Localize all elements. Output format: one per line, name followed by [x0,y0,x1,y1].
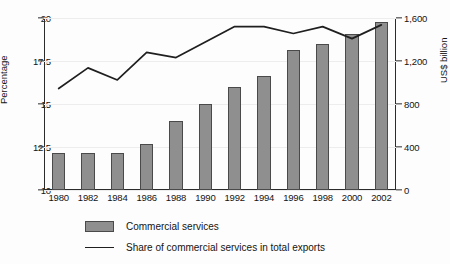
legend-label: Share of commercial services in total ex… [126,242,325,253]
legend-swatch-cell [0,247,126,248]
bar [228,87,241,190]
gridline [44,18,396,19]
y-axis-right-tick-label: 400 [404,142,444,153]
y-axis-right-tick-mark [396,103,402,104]
gridline [44,190,396,191]
x-axis-tick-label: 2002 [371,192,391,203]
bar [345,34,358,190]
x-axis-tick-label: 1986 [136,192,156,203]
x-axis-tick-label: 1990 [195,192,215,203]
x-axis-tick-label: 1994 [254,192,274,203]
x-axis-tick-label: 1998 [312,192,332,203]
bar [287,50,300,190]
y-axis-left-title: Percentage [0,55,9,104]
bar [140,144,153,190]
bar [81,153,94,190]
x-axis-tick-label: 1984 [107,192,127,203]
x-axis-tick-label: 1988 [166,192,186,203]
legend-item-share-of-commercial-services: Share of commercial services in total ex… [0,237,450,258]
y-axis-right-tick-mark [396,17,402,18]
x-axis-tick-label: 1980 [48,192,68,203]
x-axis-tick-label: 1992 [224,192,244,203]
y-axis-right-tick-label: 1,200 [404,56,444,67]
bar [375,22,388,190]
y-axis-right-tick-label: 800 [404,99,444,110]
gridline [44,104,396,105]
y-axis-right-tick-label: 0 [404,185,444,196]
legend-item-commercial-services: Commercial services [0,216,450,237]
x-axis-tick-label: 2000 [342,192,362,203]
bar [316,44,329,190]
legend-label: Commercial services [126,221,219,232]
bar-swatch-icon [85,221,114,232]
y-axis-right-tick-mark [396,189,402,190]
plot-area [44,18,396,190]
bar [52,153,65,190]
gridline [44,147,396,148]
bar [257,76,270,190]
y-axis-right-tick-mark [396,60,402,61]
chart-legend: Commercial services Share of commercial … [0,216,450,258]
legend-swatch-cell [0,221,126,232]
bar [169,121,182,190]
bar [199,104,212,190]
y-axis-right-tick-mark [396,146,402,147]
chart-figure: Percentage US$ billion 20 17.5 15 12.5 1… [0,0,450,264]
y-axis-right-tick-label: 1,600 [404,13,444,24]
bar [111,153,124,190]
x-axis-tick-label: 1996 [283,192,303,203]
x-axis-tick-label: 1982 [78,192,98,203]
line-swatch-icon [85,247,114,248]
gridline [44,61,396,62]
